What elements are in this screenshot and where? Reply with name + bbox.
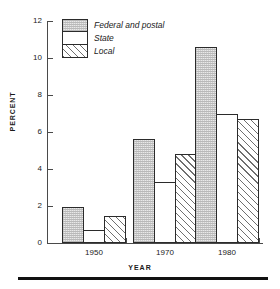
bar-1980-federal-and-postal bbox=[195, 47, 217, 243]
x-tick bbox=[259, 238, 260, 243]
y-tick bbox=[47, 132, 53, 133]
legend-swatch-federal-icon bbox=[62, 19, 88, 32]
bar-1950-federal-and-postal bbox=[62, 207, 84, 243]
y-tick-label: 2 bbox=[0, 201, 42, 210]
y-tick-label: 6 bbox=[0, 127, 42, 136]
bar-1980-state bbox=[216, 114, 238, 243]
y-tick bbox=[47, 21, 53, 22]
y-tick-label: 4 bbox=[0, 164, 42, 173]
y-tick bbox=[47, 58, 53, 59]
bar-1950-state bbox=[83, 230, 105, 243]
y-tick-label: 10 bbox=[0, 53, 42, 62]
x-tick-label: 1970 bbox=[135, 248, 195, 257]
x-tick bbox=[126, 238, 127, 243]
y-tick bbox=[47, 206, 53, 207]
x-tick-label: 1950 bbox=[64, 248, 124, 257]
x-axis-line bbox=[47, 243, 263, 244]
legend-swatch-local-icon bbox=[62, 45, 88, 58]
y-tick bbox=[47, 243, 53, 244]
bar-1970-federal-and-postal bbox=[133, 139, 155, 243]
bar-1950-local bbox=[104, 216, 126, 243]
bar-1970-state bbox=[154, 182, 176, 243]
y-tick-label: 8 bbox=[0, 90, 42, 99]
y-tick bbox=[47, 169, 53, 170]
chart-figure: PERCENT 024681012 195019701980 YEAR Fede… bbox=[0, 0, 280, 289]
legend-swatch-state-icon bbox=[62, 32, 88, 45]
y-tick-label: 12 bbox=[0, 16, 42, 25]
legend-label-state: State bbox=[94, 33, 114, 43]
y-tick bbox=[47, 95, 53, 96]
legend-label-federal: Federal and postal bbox=[94, 20, 164, 30]
y-tick-label: 0 bbox=[0, 238, 42, 247]
x-axis-label: YEAR bbox=[0, 264, 280, 271]
bottom-rule bbox=[18, 277, 268, 280]
x-tick-label: 1980 bbox=[197, 248, 257, 257]
bar-1980-local bbox=[237, 119, 259, 243]
legend-label-local: Local bbox=[94, 46, 114, 56]
bar-1970-local bbox=[175, 154, 197, 243]
